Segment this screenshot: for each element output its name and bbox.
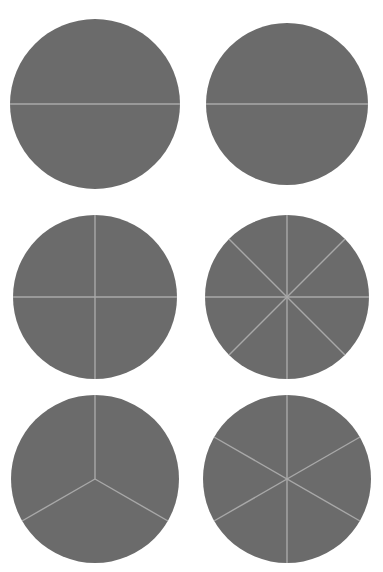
fraction-circle-cell-sixths	[191, 386, 383, 572]
fraction-circle-halves-b[interactable]	[191, 0, 383, 208]
fraction-circle-cell-thirds	[0, 386, 191, 572]
fraction-circle-grid	[0, 0, 383, 572]
fraction-circle-quarters[interactable]	[0, 208, 191, 386]
fraction-circle-cell-quarters	[0, 208, 191, 386]
worksheet-canvas	[0, 0, 383, 572]
fraction-circle-cell-halves-b	[191, 0, 383, 208]
fraction-circle-thirds[interactable]	[0, 386, 191, 572]
fraction-circle-sixths[interactable]	[191, 386, 383, 572]
fraction-circle-cell-halves-a	[0, 0, 191, 208]
fraction-circle-halves-a[interactable]	[0, 0, 191, 208]
divider-lines	[205, 215, 369, 379]
fraction-circle-cell-eighths	[191, 208, 383, 386]
fraction-circle-eighths[interactable]	[191, 208, 383, 386]
